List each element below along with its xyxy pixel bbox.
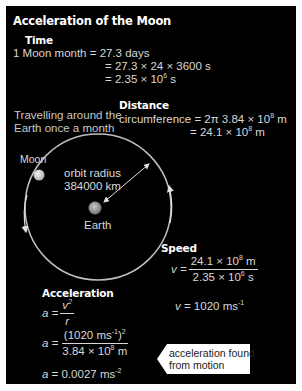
acceleration-substitution: a = (1020 ms-1)2 3.84 × 108 m [42, 329, 129, 358]
acceleration-substitution-fraction: (1020 ms-1)2 3.84 × 108 m [60, 329, 129, 358]
speed-lhs: v = [171, 263, 187, 276]
acceleration-sub-numerator: (1020 ms-1)2 [62, 329, 128, 344]
speed-fraction: 24.1 × 108 m 2.35 × 106 s [189, 255, 258, 284]
acc-den-unit: m [115, 345, 128, 357]
speed-num-base: 24.1 × 10 [191, 255, 239, 267]
moon-icon [34, 170, 45, 181]
orbit-radius-label: orbit radius 384000 km [64, 167, 121, 193]
speed-den-unit: s [245, 271, 254, 283]
orbit-radius-label-1: orbit radius [64, 167, 121, 180]
callout-line-1: acceleration found [169, 347, 255, 359]
acceleration-formula: a = v2 r [42, 299, 74, 328]
moon-label: Moon [20, 153, 46, 166]
speed-heading: Speed [161, 242, 197, 254]
speed-result: v = 1020 ms-1 [175, 300, 244, 313]
speed-numerator: 24.1 × 108 m [189, 255, 258, 270]
acceleration-sub-denominator: 3.84 × 108 m [60, 344, 129, 358]
speed-equation: v = 24.1 × 108 m 2.35 × 106 s [171, 255, 258, 284]
earth-icon [89, 202, 102, 215]
acc-result-base: = 0.0027 ms [48, 368, 115, 380]
acceleration-formula-numerator: v2 [60, 299, 74, 314]
diagram-panel: Acceleration of the Moon Time 1 Moon mon… [6, 6, 296, 384]
acceleration-result: a = 0.0027 ms-2 [42, 368, 121, 381]
speed-den-base: 2.35 × 10 [193, 271, 241, 283]
speed-num-unit: m [243, 255, 256, 267]
acc-result-exp: -2 [115, 367, 121, 374]
acc-den-base: 3.84 × 10 [62, 345, 110, 357]
speed-result-base: = 1020 ms [181, 300, 238, 312]
acceleration-lhs-1: a = [42, 307, 58, 320]
callout-text: acceleration found from motion [169, 347, 255, 371]
acceleration-lhs-2: a = [42, 337, 58, 350]
speed-denominator: 2.35 × 106 s [191, 270, 256, 284]
acceleration-formula-fraction: v2 r [60, 299, 74, 328]
v-squared-exp: 2 [68, 298, 72, 305]
r-symbol: r [63, 314, 71, 328]
earth-label: Earth [84, 219, 112, 232]
callout-line-2: from motion [169, 359, 255, 371]
acc-num-base: (1020 ms [64, 329, 112, 341]
acceleration-heading: Acceleration [42, 287, 114, 299]
orbit-radius-label-2: 384000 km [64, 180, 121, 193]
acc-num-exp2: 2 [122, 328, 126, 335]
speed-result-exp: -1 [238, 299, 244, 306]
